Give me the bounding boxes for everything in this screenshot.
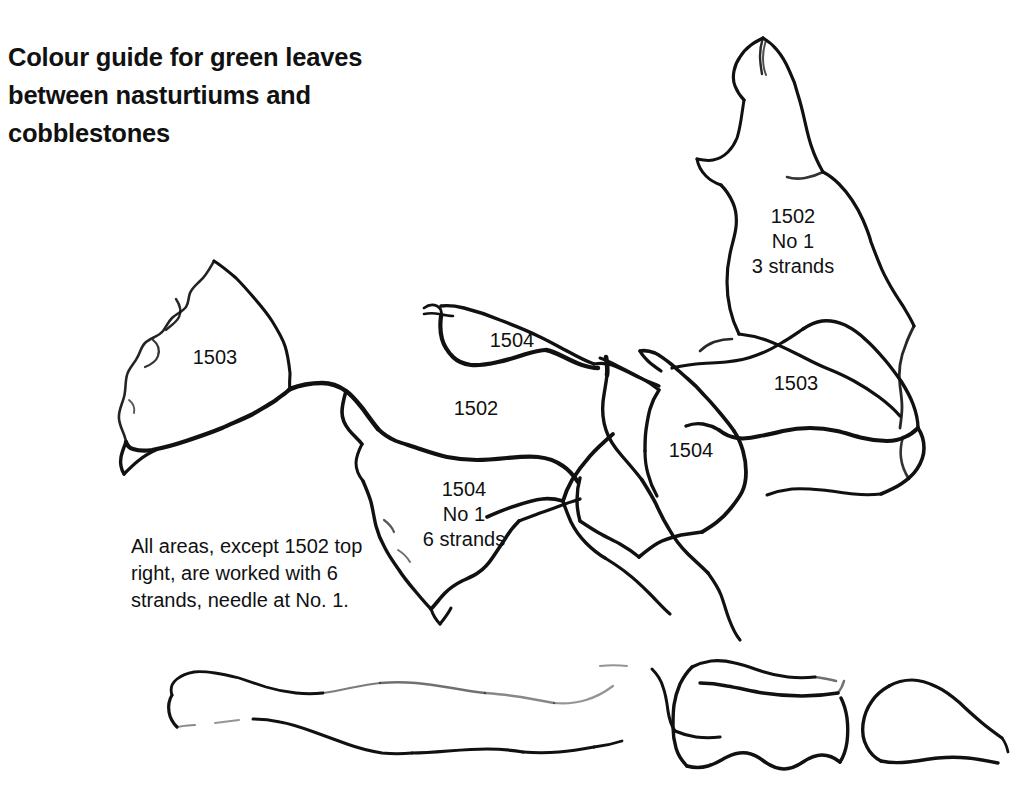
page-title: Colour guide for green leaves between na… — [8, 38, 438, 152]
region-label-upper-middle-1504: 1504 — [490, 328, 535, 353]
colour-guide-diagram: Colour guide for green leaves between na… — [0, 0, 1016, 799]
region-label-left-leaf-1503: 1503 — [193, 345, 238, 370]
region-label-right-1503: 1503 — [774, 371, 819, 396]
left-stem — [290, 383, 420, 481]
instruction-note: All areas, except 1502 top right, are wo… — [131, 533, 401, 614]
upper-middle-leaf-1504-outline — [424, 305, 659, 386]
region-label-top-right-1502: 1502 No 1 3 strands — [752, 204, 834, 279]
right-leaf-1503-outline — [672, 321, 924, 495]
cobblestone-right — [863, 680, 1008, 763]
region-label-middle-1502: 1502 — [454, 396, 499, 421]
centre-midrib — [487, 375, 740, 640]
cobblestone-middle — [673, 661, 848, 769]
region-label-right-middle-1504: 1504 — [669, 438, 714, 463]
right-middle-leaf-1504-outline — [577, 351, 746, 557]
region-label-lower-middle-1504: 1504 No 1 6 strands — [423, 477, 505, 552]
cobblestone-left — [169, 665, 720, 754]
